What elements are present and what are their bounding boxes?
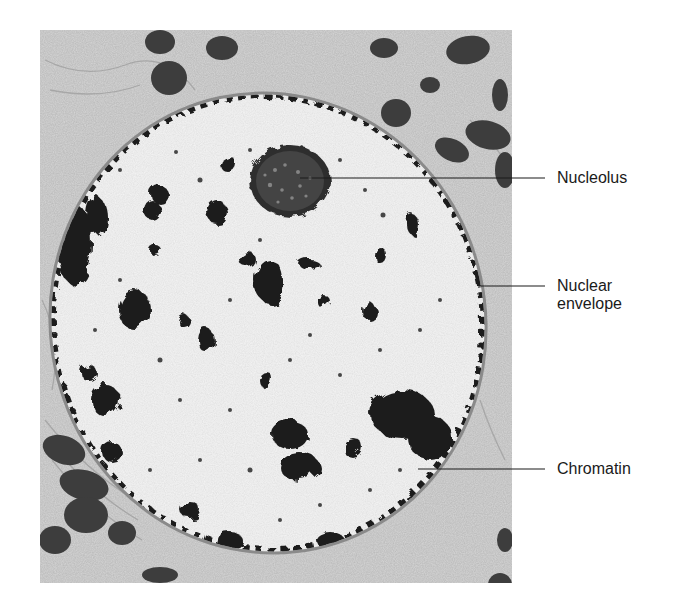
nuclear-envelope-label-line2: envelope [557,295,622,313]
nuclear-envelope-label: Nuclear envelope [557,277,622,313]
nucleolus [250,145,330,217]
chromatin-label: Chromatin [557,460,631,478]
nuclear-envelope-label-line1: Nuclear [557,277,622,295]
micrograph-image [6,30,531,597]
nucleolus-label: Nucleolus [557,169,627,187]
